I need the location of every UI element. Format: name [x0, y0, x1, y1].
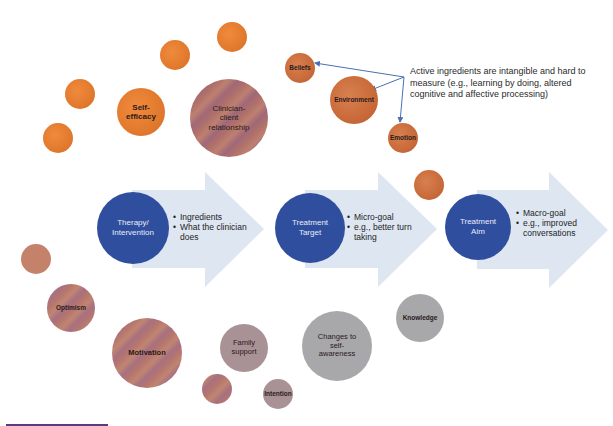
connector-environment	[371, 77, 404, 90]
bullet-item: Macro-goal	[523, 208, 587, 218]
bubble-unlabeled-4	[43, 123, 73, 153]
bubble-self-efficacy: Self- efficacy	[117, 88, 165, 136]
stage-label: Therapy/ Intervention	[112, 218, 154, 238]
bubble-optimism: Optimism	[47, 284, 95, 332]
bubble-unlabeled-3	[65, 79, 95, 109]
bubble-label: Emotion	[390, 134, 416, 141]
bubble-label: Beliefs	[289, 64, 310, 71]
bullet-item: e.g., better turn taking	[354, 222, 416, 242]
bubble-knowledge: Knowledge	[396, 294, 444, 342]
connector-beliefs	[315, 63, 404, 77]
bubble-environment: Environment	[330, 76, 378, 124]
bubble-label: Family support	[231, 339, 256, 356]
bubble-label: Changes to self- awareness	[318, 333, 356, 359]
stage-bullets-aim: Macro-goal e.g., improved conversations	[515, 208, 587, 239]
stage-label: Treatment Aim	[460, 217, 496, 237]
stage-circle-therapy-intervention: Therapy/ Intervention	[97, 192, 169, 264]
bubble-label: Clinician- client relationship	[209, 104, 250, 132]
bubble-unlabeled-6	[21, 244, 51, 274]
bullet-item: e.g., improved conversations	[523, 218, 587, 238]
stage-circle-treatment-target: Treatment Target	[275, 193, 345, 263]
bullet-item: What the clinician does	[180, 222, 252, 242]
bubble-label: Intention	[264, 390, 291, 397]
bubble-emotion: Emotion	[388, 123, 418, 153]
bubble-unlabeled-1	[160, 40, 190, 70]
bubble-label: Optimism	[56, 304, 86, 311]
bubble-clinician-client-relationship: Clinician- client relationship	[190, 79, 268, 157]
bubble-label: Self- efficacy	[126, 103, 156, 121]
stage-bullets-therapy: Ingredients What the clinician does	[172, 212, 252, 243]
bubble-unlabeled-5	[414, 170, 444, 200]
bubble-intention: Intention	[263, 379, 293, 409]
bubble-unlabeled-2	[217, 22, 247, 52]
active-ingredients-annotation: Active ingredients are intangible and ha…	[410, 66, 605, 101]
bubble-family-support: Family support	[220, 324, 268, 372]
bubble-label: Environment	[334, 96, 374, 103]
stage-circle-treatment-aim: Treatment Aim	[445, 194, 511, 260]
bullet-item: Ingredients	[180, 212, 252, 222]
connector-emotion	[400, 77, 404, 122]
bullet-item: Micro-goal	[354, 212, 416, 222]
bubble-label: Knowledge	[403, 314, 438, 321]
bubble-beliefs: Beliefs	[285, 53, 315, 83]
bubble-unlabeled-7	[202, 374, 232, 404]
stage-bullets-target: Micro-goal e.g., better turn taking	[346, 212, 416, 243]
bubble-changes-to-self-awareness: Changes to self- awareness	[302, 311, 372, 381]
bubble-label: Motivation	[128, 349, 166, 358]
bubble-motivation: Motivation	[112, 318, 182, 388]
diagram-canvas: Self- efficacy Clinician- client relatio…	[0, 0, 613, 426]
stage-label: Treatment Target	[292, 218, 328, 238]
